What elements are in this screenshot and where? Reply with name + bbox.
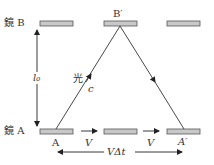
- mirror-a-left: [40, 129, 73, 134]
- mirror-a-middle: [104, 129, 137, 134]
- mirror-b-left: [40, 21, 73, 26]
- v-delta-t-label: VΔt: [107, 147, 125, 157]
- mirror-a-right: [167, 129, 200, 134]
- light-label: 光: [73, 74, 83, 84]
- c-label: c: [88, 84, 94, 94]
- light-path-up: [56, 26, 120, 129]
- b-prime-label: B′: [113, 9, 123, 19]
- v-label-2: V: [147, 138, 154, 148]
- mirror-b-label: 鏡 B: [4, 18, 25, 28]
- a-prime-label: A′: [178, 137, 188, 147]
- v-label-1: V: [85, 138, 92, 148]
- light-path-down-rest: [155, 82, 184, 129]
- light-path-down: [120, 26, 155, 82]
- a-label: A: [52, 138, 59, 148]
- mirror-b-right: [167, 21, 200, 26]
- light-direction-arrow: [86, 74, 91, 82]
- mirror-b-middle: [104, 21, 137, 26]
- mirror-a-label: 鏡 A: [4, 126, 24, 136]
- l0-label: l₀: [33, 73, 40, 83]
